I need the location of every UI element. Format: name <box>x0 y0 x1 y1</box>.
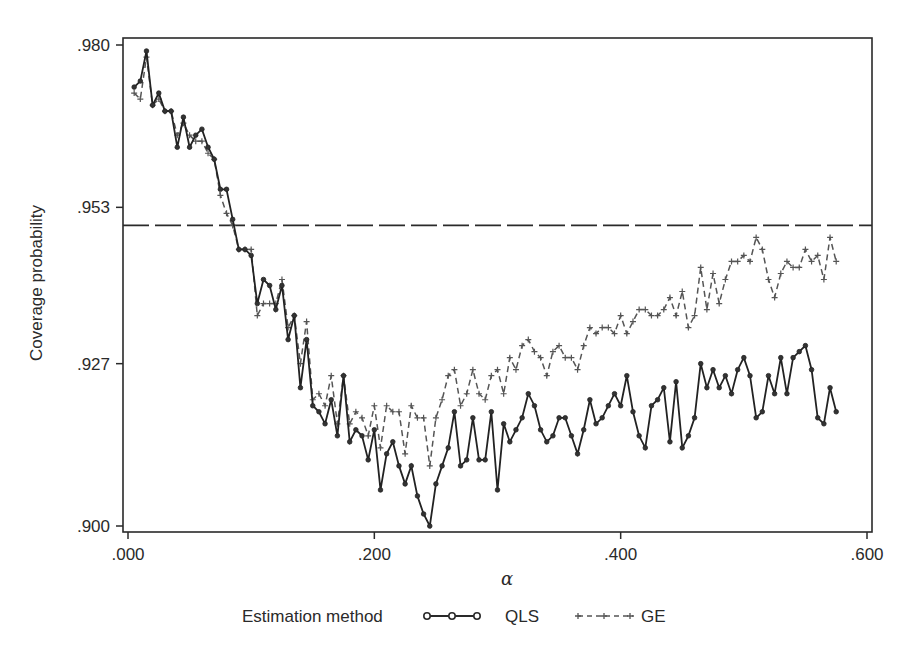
ge-marker <box>833 258 839 264</box>
ge-marker <box>525 337 531 343</box>
ge-marker <box>359 415 365 421</box>
x-tick-label: .000 <box>111 545 144 564</box>
qls-marker <box>292 313 297 318</box>
qls-marker <box>495 488 500 493</box>
ge-marker <box>260 301 266 307</box>
x-tick-label: .400 <box>604 545 637 564</box>
qls-marker <box>298 385 303 390</box>
ge-marker <box>414 415 420 421</box>
ge-marker <box>464 391 470 397</box>
ge-marker <box>421 415 427 421</box>
ge-marker <box>482 397 488 403</box>
qls-marker <box>477 458 482 463</box>
qls-marker <box>532 403 537 408</box>
qls-marker <box>778 355 783 360</box>
ge-marker <box>488 373 494 379</box>
qls-marker <box>618 403 623 408</box>
legend-ge-symbol <box>575 613 634 619</box>
y-tick-label: .953 <box>77 198 110 217</box>
qls-marker <box>144 49 149 54</box>
ge-marker <box>224 210 230 216</box>
qls-marker <box>661 385 666 390</box>
qls-marker <box>742 355 747 360</box>
qls-marker <box>409 464 414 469</box>
qls-marker <box>464 458 469 463</box>
qls-marker <box>575 452 580 457</box>
ge-marker <box>470 367 476 373</box>
qls-marker <box>606 403 611 408</box>
qls-marker <box>803 343 808 348</box>
qls-marker <box>237 247 242 252</box>
qls-marker <box>520 415 525 420</box>
qls-marker <box>544 440 549 445</box>
qls-marker <box>754 415 759 420</box>
ge-marker <box>685 325 691 331</box>
qls-line <box>134 51 836 526</box>
ge-marker <box>568 355 574 361</box>
ge-marker <box>562 355 568 361</box>
ge-marker <box>575 367 581 373</box>
qls-marker <box>403 482 408 487</box>
ge-marker <box>605 325 611 331</box>
qls-marker <box>452 409 457 414</box>
ge-marker <box>544 373 550 379</box>
series-qls <box>132 49 839 529</box>
ge-marker <box>661 307 667 313</box>
series-ge <box>131 54 839 469</box>
ge-marker <box>254 313 260 319</box>
x-axis-title: α <box>501 568 513 589</box>
ge-marker <box>371 403 377 409</box>
qls-marker <box>212 157 217 162</box>
qls-marker <box>471 415 476 420</box>
qls-marker <box>514 428 519 433</box>
qls-marker <box>261 277 266 282</box>
ge-marker <box>624 331 630 337</box>
qls-marker <box>680 446 685 451</box>
ge-marker <box>729 258 735 264</box>
qls-marker <box>218 187 223 192</box>
ge-marker <box>587 325 593 331</box>
coverage-probability-chart: .900.927.953.980 .000.200.400.600 Covera… <box>0 0 915 653</box>
qls-marker <box>791 355 796 360</box>
ge-marker <box>827 234 833 240</box>
qls-marker <box>692 415 697 420</box>
qls-marker <box>458 464 463 469</box>
ge-marker <box>396 409 402 415</box>
qls-marker <box>717 385 722 390</box>
qls-marker <box>822 421 827 426</box>
qls-marker <box>372 428 377 433</box>
ge-marker <box>451 367 457 373</box>
legend-qls-symbol <box>424 613 480 619</box>
qls-marker <box>588 397 593 402</box>
qls-marker <box>785 391 790 396</box>
ge-marker <box>753 234 759 240</box>
qls-marker <box>594 421 599 426</box>
legend-title: Estimation method <box>242 607 383 626</box>
qls-marker <box>230 217 235 222</box>
qls-marker <box>200 127 205 132</box>
qls-marker <box>163 109 168 114</box>
qls-marker <box>563 415 568 420</box>
qls-marker <box>581 428 586 433</box>
ge-marker <box>445 373 451 379</box>
qls-marker <box>655 397 660 402</box>
qls-marker <box>649 403 654 408</box>
x-tick-label: .600 <box>850 545 883 564</box>
ge-marker <box>279 276 285 282</box>
qls-marker <box>686 434 691 439</box>
ge-marker <box>408 403 414 409</box>
qls-marker <box>323 421 328 426</box>
ge-marker <box>673 313 679 319</box>
qls-marker <box>729 391 734 396</box>
ge-marker <box>402 451 408 457</box>
qls-marker <box>815 415 820 420</box>
ge-marker <box>304 319 310 325</box>
qls-marker <box>643 446 648 451</box>
qls-marker <box>150 103 155 108</box>
qls-marker <box>735 367 740 372</box>
qls-marker <box>310 403 315 408</box>
qls-marker <box>625 373 630 378</box>
legend: Estimation method QLS GE <box>242 607 666 626</box>
ge-marker <box>642 307 648 313</box>
qls-marker <box>249 253 254 258</box>
